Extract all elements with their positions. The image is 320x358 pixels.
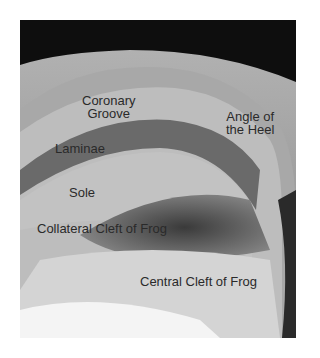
label-coronary-groove-line2: Groove [82, 107, 135, 120]
label-central-cleft: Central Cleft of Frog [140, 275, 257, 288]
hoof-illustration [20, 20, 296, 338]
hoof-photo [20, 20, 296, 338]
label-coronary-groove: Coronary Groove [82, 94, 135, 120]
label-collateral-cleft: Collateral Cleft of Frog [37, 222, 167, 235]
label-angle-of-heel-line2: the Heel [226, 123, 274, 136]
label-sole: Sole [69, 186, 95, 199]
label-angle-of-heel: Angle of the Heel [226, 110, 274, 136]
label-laminae: Laminae [55, 142, 105, 155]
